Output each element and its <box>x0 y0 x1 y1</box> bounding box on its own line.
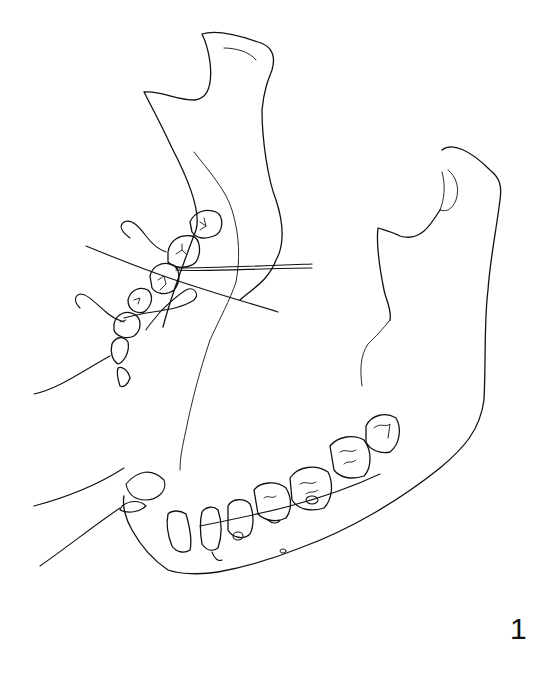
wire-strand-upper-right-2 <box>176 268 312 271</box>
left-ramus-inner-line <box>180 152 239 470</box>
wire-tangle-lower-left <box>120 472 165 512</box>
lower-molar-2 <box>330 437 370 478</box>
lower-incisor-1 <box>167 511 191 552</box>
lower-molar-3-fissure <box>374 424 390 438</box>
oblique-ridge <box>361 320 390 386</box>
lower-molar-1-fissure <box>300 482 318 494</box>
lower-premolar-1 <box>228 500 253 538</box>
mandible-illustration <box>0 0 548 674</box>
lower-premolar-2 <box>254 483 291 521</box>
right-condyle-inner <box>440 170 458 211</box>
canine <box>111 338 128 364</box>
sigmoid-notch <box>377 210 440 320</box>
figure-number-label: 1 <box>510 612 527 646</box>
wire-loop-canine <box>124 289 196 330</box>
premolar-2 <box>114 312 140 337</box>
wire-loop-upper <box>121 221 166 252</box>
lower-incisor-2 <box>201 507 222 550</box>
wire-lower-twist <box>212 520 280 561</box>
lower-molar-2-fissure <box>340 450 356 464</box>
lower-premolar-2-fissure <box>264 496 276 498</box>
molar-3-fissure <box>158 276 166 290</box>
wire-strand-left-2 <box>34 468 124 506</box>
left-ramus-outline <box>144 32 282 327</box>
lower-molar-3 <box>366 415 399 453</box>
wire-strand-left-1 <box>34 356 110 394</box>
left-ramus-top-line <box>224 48 256 60</box>
foramen <box>280 549 286 553</box>
premolar-1-fissure <box>134 298 140 304</box>
molar-2-fissure <box>176 244 186 254</box>
wire-strand-upper-right <box>176 264 312 268</box>
premolar-1 <box>128 288 151 312</box>
wire-strand-upper-diag <box>86 246 278 312</box>
molar-1-fissure <box>200 218 206 230</box>
incisor <box>117 367 130 386</box>
wire-strand-left-3 <box>40 508 120 566</box>
